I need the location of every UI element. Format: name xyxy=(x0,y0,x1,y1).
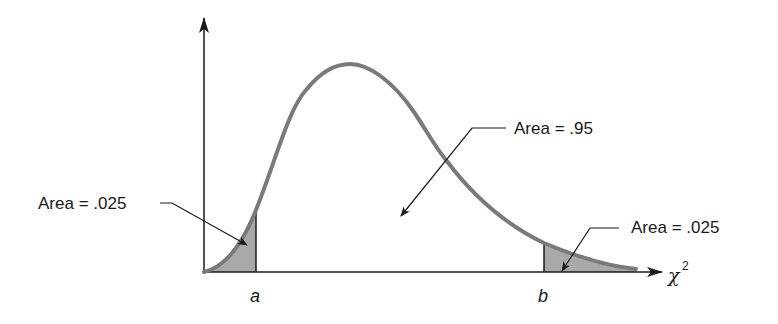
chi-square-diagram: Area = .025 Area = .95 Area = .025 a b χ… xyxy=(0,0,778,324)
left-area-label: Area = .025 xyxy=(38,194,126,213)
right-area-label: Area = .025 xyxy=(631,218,719,237)
tick-label-b: b xyxy=(538,286,548,306)
x-axis-chi-label: χ xyxy=(666,264,681,286)
tick-label-a: a xyxy=(250,286,260,306)
x-axis-superscript: 2 xyxy=(682,259,689,273)
center-area-label: Area = .95 xyxy=(514,119,593,138)
left-tail-shaded-region xyxy=(204,210,256,272)
density-curve xyxy=(204,64,636,272)
